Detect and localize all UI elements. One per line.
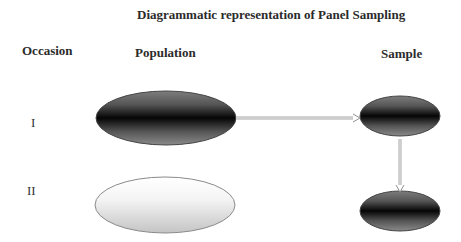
sample-ellipse-occasion-2: [360, 191, 440, 231]
sample-ellipse-occasion-1: [360, 96, 440, 136]
population-ellipse-occasion-2: [95, 177, 235, 233]
arrow-sample-to-sample: [396, 139, 404, 192]
panel-sampling-diagram: [0, 0, 461, 242]
population-ellipse-occasion-1: [96, 91, 236, 145]
arrow-population-to-sample: [236, 114, 360, 122]
